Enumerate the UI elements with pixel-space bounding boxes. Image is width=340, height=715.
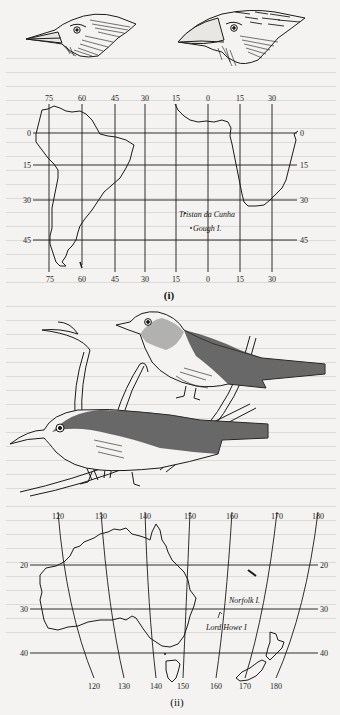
map-i-latitude-lines bbox=[33, 133, 297, 240]
map-i-lon-bottom-label: 30 bbox=[141, 275, 149, 284]
map-i-lon-bottom-label: 0 bbox=[206, 275, 210, 284]
map-ii-lon-bottom-label: 180 bbox=[270, 682, 282, 691]
map-ii-lon-bottom-label: 120 bbox=[88, 682, 100, 691]
map-i-lat-right-label: 0 bbox=[300, 129, 304, 138]
map-i-lon-top-label: 45 bbox=[111, 94, 119, 103]
finch-head-left-icon bbox=[26, 14, 136, 57]
map-ii-lon-bottom-label: 170 bbox=[239, 682, 251, 691]
figure-drawing: 75 60 45 30 15 0 15 30 75 60 45 30 15 0 … bbox=[0, 0, 340, 715]
map-i-lon-top-label: 15 bbox=[236, 94, 244, 103]
map-i-lat-left-label: 15 bbox=[23, 161, 31, 170]
upper-white-eye-bird-icon bbox=[116, 312, 325, 400]
map-ii-lon-top-label: 130 bbox=[95, 512, 107, 521]
map-i-lat-left-label: 30 bbox=[23, 196, 31, 205]
map-i-lat-right-label: 30 bbox=[300, 196, 308, 205]
map-ii-lat-left-label: 30 bbox=[20, 605, 28, 614]
map-ii-latitude-lines bbox=[30, 565, 318, 653]
map-ii-lon-top-label: 180 bbox=[312, 512, 324, 521]
map-i-lat-right-label: 45 bbox=[300, 236, 308, 245]
white-eye-birds-illustration bbox=[10, 312, 325, 496]
map-ii-lat-right-label: 40 bbox=[320, 649, 328, 658]
map-ii-lon-bottom-label: 160 bbox=[210, 682, 222, 691]
africa-outline bbox=[175, 104, 298, 206]
map-i-lon-bottom-label: 45 bbox=[111, 275, 119, 284]
map-ii-lon-bottom-label: 150 bbox=[177, 682, 189, 691]
map-i-lon-top-label: 15 bbox=[172, 94, 180, 103]
new-caledonia-marker bbox=[248, 570, 256, 576]
map-i-lon-bottom-label: 75 bbox=[46, 275, 54, 284]
map-i-lat-left-label: 45 bbox=[23, 236, 31, 245]
map-south-atlantic: 75 60 45 30 15 0 15 30 75 60 45 30 15 0 … bbox=[23, 94, 308, 284]
map-australasia: 120 130 140 150 160 170 180 120 130 140 … bbox=[20, 512, 328, 691]
map-ii-lat-right-label: 30 bbox=[320, 605, 328, 614]
finch-head-right-icon bbox=[178, 10, 305, 66]
map-i-longitude-lines bbox=[49, 104, 272, 272]
map-ii-lon-top-label: 120 bbox=[52, 512, 64, 521]
map-ii-lon-bottom-label: 140 bbox=[150, 682, 162, 691]
map-ii-lat-left-label: 40 bbox=[20, 649, 28, 658]
map-i-lon-top-label: 30 bbox=[141, 94, 149, 103]
map-i-lon-bottom-label: 30 bbox=[268, 275, 276, 284]
new-zealand-north-island-outline bbox=[266, 632, 284, 660]
place-label-gough-island: Gough I. bbox=[193, 224, 221, 233]
figure-caption-ii: (ii) bbox=[170, 696, 184, 709]
map-ii-lon-top-label: 170 bbox=[271, 512, 283, 521]
map-i-lon-bottom-label: 15 bbox=[172, 275, 180, 284]
figure-caption-i: (i) bbox=[164, 289, 175, 302]
islet-dot bbox=[164, 653, 166, 655]
south-america-outline bbox=[36, 106, 134, 266]
map-ii-lon-top-label: 150 bbox=[184, 512, 196, 521]
lord-howe-island-marker bbox=[218, 612, 222, 618]
place-label-norfolk-island: Norfolk I. bbox=[228, 596, 260, 605]
place-label-lord-howe-island: Lord Howe I bbox=[205, 623, 247, 632]
map-i-lon-top-label: 0 bbox=[206, 94, 210, 103]
map-ii-lat-right-label: 20 bbox=[320, 561, 328, 570]
map-i-lon-bottom-label: 60 bbox=[78, 275, 86, 284]
place-label-tristan-da-cunha: Tristan da Cunha bbox=[179, 210, 235, 219]
map-i-lon-top-label: 60 bbox=[78, 94, 86, 103]
map-i-lat-right-label: 15 bbox=[300, 161, 308, 170]
map-i-lon-bottom-label: 15 bbox=[236, 275, 244, 284]
map-ii-lon-top-label: 140 bbox=[139, 512, 151, 521]
map-ii-lon-bottom-label: 130 bbox=[118, 682, 130, 691]
new-zealand-south-island-outline bbox=[236, 660, 266, 681]
lower-white-eye-bird-icon bbox=[10, 409, 268, 486]
map-i-lon-top-label: 30 bbox=[268, 94, 276, 103]
map-ii-lon-top-label: 160 bbox=[226, 512, 238, 521]
map-i-lon-top-label: 75 bbox=[45, 94, 53, 103]
map-i-lat-left-label: 0 bbox=[27, 129, 31, 138]
tasmania-outline bbox=[166, 660, 180, 682]
gough-island-dot bbox=[190, 227, 192, 229]
australia-outline bbox=[40, 524, 196, 647]
map-ii-lat-left-label: 20 bbox=[20, 561, 28, 570]
book-figure-page: 75 60 45 30 15 0 15 30 75 60 45 30 15 0 … bbox=[0, 0, 340, 715]
